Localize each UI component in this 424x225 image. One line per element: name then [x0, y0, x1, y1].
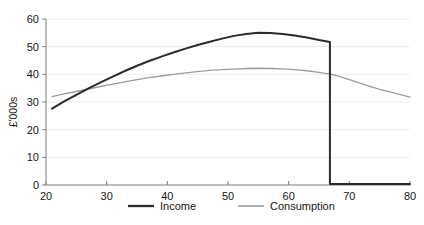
series-line-consumption [52, 68, 410, 97]
y-axis-tick-label: 40 [27, 68, 39, 80]
y-axis-title: £'000s [7, 97, 19, 128]
data-series-group [52, 33, 410, 184]
y-axis-tick-label: 50 [27, 41, 39, 53]
y-axis-tick-label: 0 [33, 179, 39, 191]
x-axis-tick-label: 50 [222, 190, 234, 202]
chart-container: 0102030405060 20304050607080 £'000s Inco… [0, 0, 424, 225]
y-axis-tick-label: 30 [27, 96, 39, 108]
line-chart: 0102030405060 20304050607080 £'000s Inco… [0, 0, 424, 225]
x-axis-tick-labels-group: 20304050607080 [40, 190, 416, 202]
y-axis-ticks-group [42, 19, 46, 185]
gridlines-group [46, 19, 410, 157]
x-axis-tick-label: 80 [404, 190, 416, 202]
y-axis-tick-label: 60 [27, 13, 39, 25]
x-axis-tick-label: 70 [343, 190, 355, 202]
series-line-income [52, 33, 410, 184]
legend-label-income: Income [160, 200, 196, 212]
x-axis-tick-label: 20 [40, 190, 52, 202]
x-axis-tick-label: 30 [101, 190, 113, 202]
y-axis-tick-labels-group: 0102030405060 [27, 13, 39, 191]
legend-label-consumption: Consumption [270, 200, 335, 212]
y-axis-tick-label: 20 [27, 124, 39, 136]
y-axis-tick-label: 10 [27, 151, 39, 163]
